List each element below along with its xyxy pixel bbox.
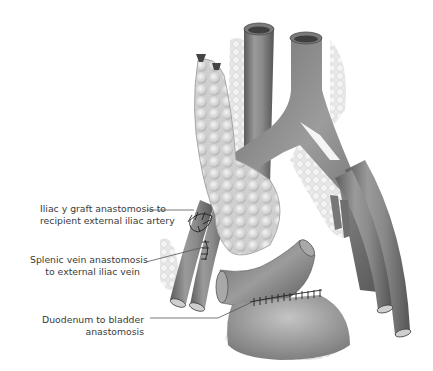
label-line: Splenic vein anastomosis [30, 254, 140, 266]
label-iliac-graft-anastomosis: Iliac y graft anastomosis to recipient e… [40, 203, 140, 227]
label-line: anastomosis [40, 326, 144, 338]
label-splenic-vein-anastomosis: Splenic vein anastomosis to external ili… [30, 254, 140, 278]
label-duodenum-bladder-anastomosis: Duodenum to bladder anastomosis [40, 314, 144, 338]
label-line: Iliac y graft anastomosis to [40, 203, 140, 215]
label-line: recipient external iliac artery [40, 215, 140, 227]
label-line: to external iliac vein [30, 266, 140, 278]
label-line: Duodenum to bladder [40, 314, 144, 326]
